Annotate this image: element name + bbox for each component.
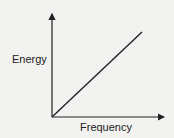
x-axis-label: Frequency <box>80 121 132 133</box>
chart-plot <box>0 0 174 138</box>
y-axis-label: Energy <box>12 53 47 65</box>
data-line <box>52 32 142 117</box>
